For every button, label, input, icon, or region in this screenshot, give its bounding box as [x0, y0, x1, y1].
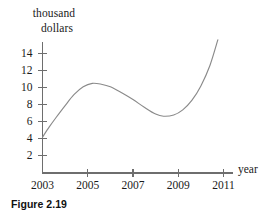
y-axis-tick-label: 8: [15, 98, 33, 110]
x-axis-title: year: [238, 163, 258, 176]
y-axis-tick-label: 6: [15, 115, 33, 127]
y-axis-title-line-2: dollars: [14, 21, 94, 36]
y-axis-tick-label: 4: [15, 132, 33, 144]
data-curve: [43, 40, 218, 137]
figure-caption: Figure 2.19: [11, 198, 67, 210]
x-axis-tick-label: 2007: [116, 179, 150, 191]
axis-lines: [42, 42, 233, 174]
y-axis-tick-label: 10: [15, 81, 33, 93]
y-axis-title: thousand dollars: [14, 6, 94, 35]
y-axis-title-line-1: thousand: [14, 6, 94, 21]
x-axis-tick-label: 2005: [71, 179, 105, 191]
x-axis-tick-label: 2009: [161, 179, 195, 191]
figure-container: thousand dollars year Figure 2.19 246810…: [0, 0, 275, 218]
x-axis-tick-label: 2011: [207, 179, 241, 191]
x-axis-tick-label: 2003: [26, 179, 60, 191]
y-axis-tick-label: 2: [15, 149, 33, 161]
data-series-group: [43, 40, 218, 137]
y-axis-tick-label: 12: [15, 64, 33, 76]
y-axis-tick-label: 14: [15, 47, 33, 59]
